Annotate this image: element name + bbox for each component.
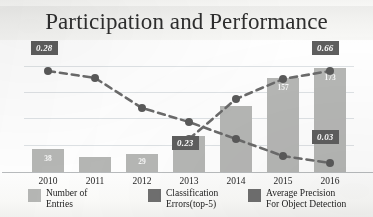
legend-item-classification-errors[interactable]: Classification Errors(top-5) — [148, 188, 218, 209]
legend-label-classification-errors: Classification Errors(top-5) — [166, 188, 218, 209]
line-series-layer — [24, 52, 354, 172]
x-tick-2014: 2014 — [212, 176, 260, 186]
chart-title: Participation and Performance — [0, 8, 373, 36]
x-tick-2010: 2010 — [24, 176, 72, 186]
legend-item-average-precision[interactable]: Average Precision For Object Detection — [248, 188, 346, 209]
data-point-markers — [44, 67, 334, 167]
chart-legend: Number of Entries Classification Errors(… — [0, 188, 373, 217]
legend-item-number-of-entries[interactable]: Number of Entries — [28, 188, 87, 209]
x-tick-2015: 2015 — [259, 176, 307, 186]
x-tick-2013: 2013 — [165, 176, 213, 186]
legend-label-line2: For Object Detection — [266, 199, 346, 210]
point-label-error-2010: 0.28 — [31, 41, 58, 55]
legend-label-number-of-entries: Number of Entries — [46, 188, 87, 209]
plot-area: 38 29 157 173 — [24, 52, 354, 172]
legend-label-line2: Entries — [46, 199, 87, 210]
legend-label-average-precision: Average Precision For Object Detection — [266, 188, 346, 209]
legend-label-line1: Average Precision — [266, 188, 346, 199]
legend-label-line2: Errors(top-5) — [166, 199, 218, 210]
chart-page: Participation and Performance 38 29 157 … — [0, 0, 373, 217]
legend-label-line1: Classification — [166, 188, 218, 199]
legend-swatch-icon — [148, 189, 161, 202]
x-tick-2012: 2012 — [118, 176, 166, 186]
point-label-error-2013: 0.23 — [172, 136, 199, 150]
point-label-error-2016: 0.03 — [312, 130, 339, 144]
legend-swatch-icon — [248, 189, 261, 202]
point-label-precision-2016: 0.66 — [312, 41, 339, 55]
x-axis-ticks: 2010 2011 2012 2013 2014 2015 2016 — [24, 176, 354, 188]
x-tick-2016: 2016 — [306, 176, 354, 186]
x-axis-line — [2, 172, 373, 173]
legend-swatch-icon — [28, 189, 41, 202]
legend-label-line1: Number of — [46, 188, 87, 199]
x-tick-2011: 2011 — [71, 176, 119, 186]
